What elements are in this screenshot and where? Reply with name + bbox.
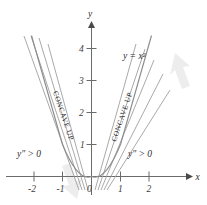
second-derivative-label-left: y″ > 0: [16, 149, 41, 159]
x-tick-label-1: 1: [118, 184, 123, 194]
x-tick-label-2: 2: [147, 184, 152, 194]
tangent-lines-right: [95, 44, 170, 190]
y-tick-label-4: 4: [79, 44, 84, 54]
y-axis-label: y: [87, 9, 93, 19]
parabola-concavity-figure: x y -2 -1 0 1 2 4 3 2 1 y = x² CONCAVE U…: [0, 0, 207, 205]
x-tick-label-neg2: -2: [28, 184, 36, 194]
x-axis-label: x: [195, 172, 201, 182]
x-tick-label-origin: 0: [87, 184, 92, 194]
figure-container: x y -2 -1 0 1 2 4 3 2 1 y = x² CONCAVE U…: [0, 0, 207, 205]
watermark-arrow-upper-right: [170, 53, 190, 89]
curve-equation-label: y = x²: [122, 51, 146, 61]
y-tick-label-1: 1: [80, 140, 85, 150]
y-tick-label-3: 3: [78, 76, 84, 86]
y-tick-label-2: 2: [79, 108, 84, 118]
second-derivative-label-right: y″ > 0: [127, 149, 152, 159]
y-axis-arrowhead: [88, 21, 95, 28]
x-axis-arrowhead: [186, 173, 193, 180]
x-tick-label-neg1: -1: [57, 184, 65, 194]
